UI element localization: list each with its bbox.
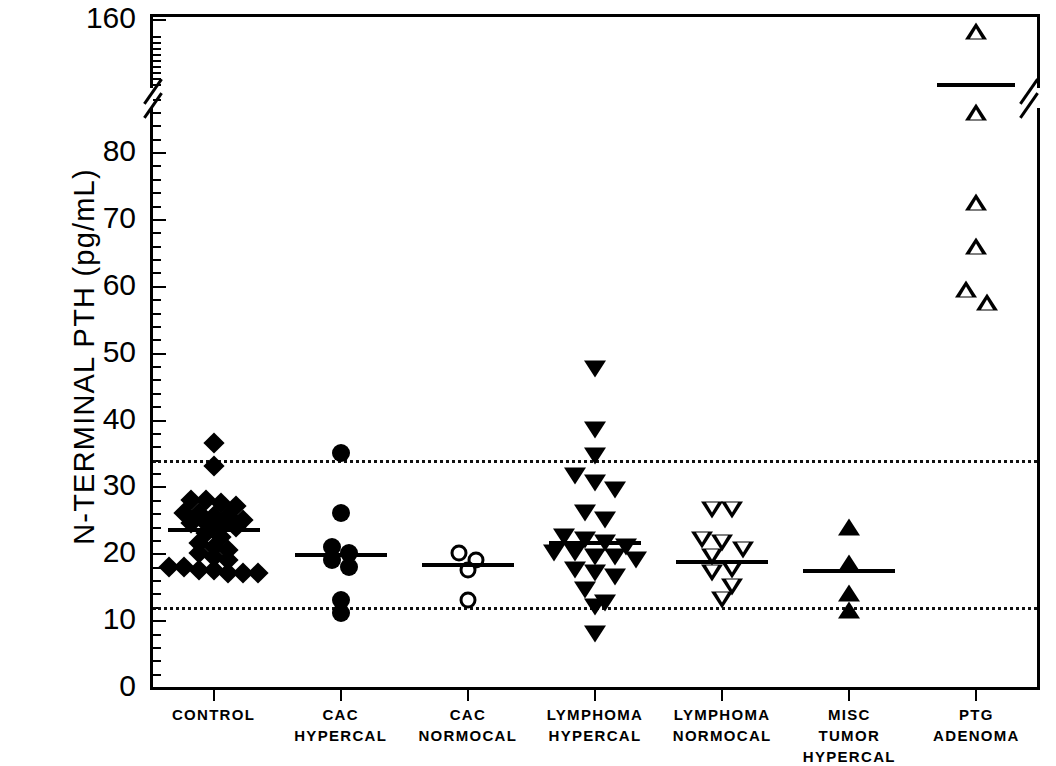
y-axis-minor-tick [153, 192, 161, 194]
y-axis-minor-tick [153, 647, 161, 649]
y-axis-tick-label: 60 [0, 270, 136, 300]
y-axis-tick-label: 40 [0, 404, 136, 434]
data-point [584, 448, 606, 465]
x-axis-tick [721, 690, 723, 701]
data-point [584, 361, 606, 378]
data-point [459, 592, 476, 609]
x-axis-category-label: PTGADENOMA [933, 704, 1020, 746]
data-point [625, 551, 647, 568]
y-axis-major-tick [153, 420, 166, 422]
y-axis-tick-label: 50 [0, 337, 136, 367]
x-axis-category-line: PTG [933, 704, 1020, 725]
y-axis-minor-tick [153, 366, 161, 368]
data-point [248, 563, 269, 584]
data-point [721, 501, 743, 518]
data-point [732, 541, 754, 558]
y-axis-minor-tick [153, 125, 161, 127]
y-axis-minor-tick [153, 139, 161, 141]
y-axis-minor-tick [153, 206, 161, 208]
y-axis-tick-label: 20 [0, 537, 136, 567]
y-axis-minor-tick [153, 406, 161, 408]
y-axis-minor-tick [153, 60, 161, 62]
data-point [594, 511, 616, 528]
y-axis-minor-tick [153, 393, 161, 395]
x-axis-category-line: HYPERCAL [803, 746, 896, 766]
x-axis-tick [975, 690, 977, 701]
data-point [965, 103, 987, 120]
y-axis-minor-tick [153, 165, 161, 167]
x-axis-category-line: NORMOCAL [673, 725, 772, 746]
y-axis-minor-tick [153, 446, 161, 448]
data-point [584, 598, 606, 615]
group-mean-bar [549, 541, 641, 545]
x-axis-category-label: CACNORMOCAL [418, 704, 517, 746]
data-point [574, 505, 596, 522]
data-point [451, 545, 468, 562]
data-point [701, 501, 723, 518]
x-axis-category-line: CAC [418, 704, 517, 725]
data-point [584, 475, 606, 492]
y-axis-minor-tick [153, 232, 161, 234]
x-axis-category-line: NORMOCAL [418, 725, 517, 746]
x-axis-category-line: MISC [803, 704, 896, 725]
y-axis-tick-label: 80 [0, 136, 136, 166]
y-axis-minor-tick [153, 179, 161, 181]
plot-frame-right [1037, 14, 1040, 690]
y-axis-minor-tick [153, 246, 161, 248]
data-point [564, 545, 586, 562]
y-axis-minor-tick [153, 299, 161, 301]
y-axis-minor-tick [153, 99, 161, 101]
data-point [340, 558, 358, 576]
data-point [604, 481, 626, 498]
data-point [604, 568, 626, 585]
data-point [564, 561, 586, 578]
y-axis-tick-label: 30 [0, 470, 136, 500]
data-point [691, 531, 713, 548]
data-point [604, 548, 626, 565]
data-point [203, 432, 224, 453]
y-axis-major-tick [153, 353, 166, 355]
x-axis-category-label: CONTROL [172, 704, 255, 725]
y-axis-tick-label: 0 [0, 671, 136, 701]
x-axis-category-line: LYMPHOMA [547, 704, 644, 725]
data-point [574, 582, 596, 599]
y-axis-minor-tick [153, 42, 161, 44]
data-point [543, 545, 565, 562]
data-point [711, 592, 733, 609]
x-axis-category-line: LYMPHOMA [673, 704, 772, 725]
y-axis-minor-tick [153, 580, 161, 582]
data-point [721, 561, 743, 578]
group-mean-bar [803, 569, 895, 573]
data-point [564, 468, 586, 485]
y-axis-tick-label: 10 [0, 604, 136, 634]
x-axis-category-label: LYMPHOMANORMOCAL [673, 704, 772, 746]
y-axis-minor-tick [153, 634, 161, 636]
y-axis-minor-tick [153, 78, 161, 80]
data-point [584, 421, 606, 438]
y-axis-minor-tick [153, 473, 161, 475]
y-axis-minor-tick [153, 272, 161, 274]
data-point [332, 504, 350, 522]
y-axis-minor-tick [153, 72, 161, 74]
data-point [332, 444, 350, 462]
y-axis-minor-tick [153, 313, 161, 315]
y-axis-major-tick [153, 486, 166, 488]
y-axis-major-tick [153, 152, 166, 154]
x-axis-category-label: MISCTUMORHYPERCAL [803, 704, 896, 766]
x-axis-category-label: LYMPHOMAHYPERCAL [547, 704, 644, 746]
y-axis-major-tick [153, 286, 166, 288]
y-axis-minor-tick [153, 48, 161, 50]
y-axis-tick-label: 160 [0, 3, 136, 33]
x-axis-tick [340, 690, 342, 701]
x-axis-category-line: HYPERCAL [294, 725, 387, 746]
group-mean-bar [676, 560, 768, 564]
y-axis-minor-tick [153, 112, 161, 114]
y-axis-minor-tick [153, 660, 161, 662]
x-axis-tick [594, 690, 596, 701]
plot-frame-top [150, 14, 1040, 17]
y-axis-minor-tick [153, 540, 161, 542]
data-point [332, 604, 350, 622]
y-axis-minor-tick [153, 527, 161, 529]
y-axis-minor-tick [153, 593, 161, 595]
